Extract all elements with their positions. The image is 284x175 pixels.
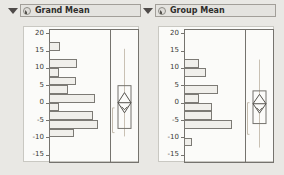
jmp-report-window: Grand Mean 20151050-5-10-15 Group Mean 2…: [0, 0, 284, 175]
outline-panel-group-mean: Group Mean 20151050-5-10-15: [0, 0, 284, 175]
outline-title: Group Mean: [170, 6, 225, 15]
outlier-boxplot: [159, 27, 275, 163]
outline-title-bar[interactable]: Group Mean: [155, 4, 276, 17]
plot-content-area: 20151050-5-10-15: [158, 26, 274, 162]
collapse-dash: [160, 10, 165, 14]
disclosure-triangle-icon[interactable]: [143, 8, 153, 14]
shortest-half-bracket: [248, 103, 250, 135]
collapse-circle-icon[interactable]: [158, 7, 166, 15]
